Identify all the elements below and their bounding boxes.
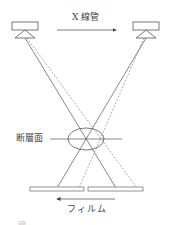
- tomography-diagram: [0, 0, 171, 225]
- tomography-plane-label: 断層面: [16, 134, 43, 143]
- xray-tube-label: X 線管: [72, 13, 99, 22]
- film-left: [30, 187, 84, 191]
- figure-caption: 図 ．．．．．．．．．．: [18, 219, 85, 225]
- film-label: フィルム: [67, 205, 107, 214]
- xray-tube-left: [12, 22, 38, 38]
- tomography-plane: [50, 128, 122, 150]
- film-right: [88, 187, 143, 191]
- xray-tube-right: [133, 22, 159, 38]
- ray-left-dashed: [27, 38, 137, 188]
- ray-right-dashed: [79, 38, 144, 188]
